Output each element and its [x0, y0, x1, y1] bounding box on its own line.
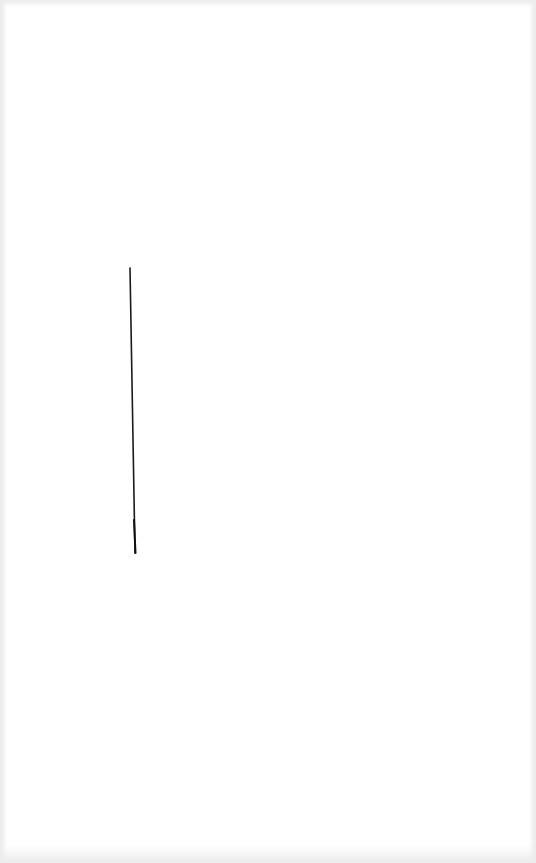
vertical-pen-stroke [130, 268, 135, 553]
blank-page [0, 0, 536, 863]
stroke-layer [0, 0, 536, 863]
